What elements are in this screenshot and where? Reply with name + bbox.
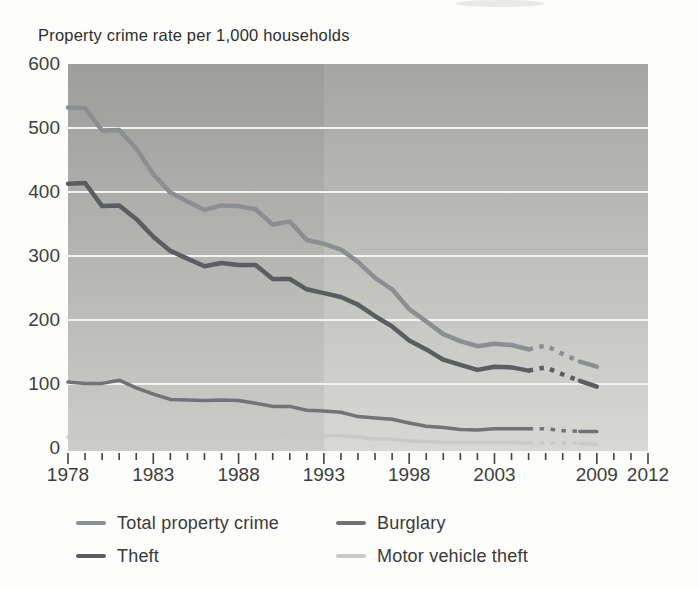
series-line-motor-vehicle-theft: [580, 444, 597, 445]
legend: Total property crime Burglary Theft Moto…: [76, 510, 528, 569]
x-axis-label-2003: 2003: [462, 464, 526, 486]
y-axis-label-400: 400: [0, 181, 60, 203]
x-axis-label-1998: 1998: [377, 464, 441, 486]
x-axis-label-1988: 1988: [207, 464, 271, 486]
y-axis-label-600: 600: [0, 53, 60, 75]
x-axis-label-1983: 1983: [121, 464, 185, 486]
series-line-total-property-crime-dashed: [529, 346, 580, 362]
x-axis-label-1978: 1978: [36, 464, 100, 486]
y-axis-label-200: 200: [0, 309, 60, 331]
motor-vehicle-theft-line-swatch: [336, 554, 366, 558]
legend-label: Total property crime: [117, 513, 279, 534]
y-axis-label-300: 300: [0, 245, 60, 267]
scanned-chart-page: Property crime rate per 1,000 households…: [0, 0, 699, 589]
legend-item-theft: Theft: [76, 543, 336, 569]
theft-line-swatch: [76, 554, 106, 558]
series-line-total-property-crime: [580, 362, 597, 367]
series-line-motor-vehicle-theft: [68, 434, 529, 443]
legend-item-burglary: Burglary: [336, 510, 528, 536]
legend-label: Theft: [117, 546, 159, 567]
legend-label: Burglary: [377, 513, 446, 534]
legend-item-total-property-crime: Total property crime: [76, 510, 336, 536]
y-axis-label-0: 0: [0, 437, 60, 459]
legend-item-motor-vehicle-theft: Motor vehicle theft: [336, 543, 528, 569]
y-axis-label-500: 500: [0, 117, 60, 139]
series-line-theft-dashed: [529, 367, 580, 380]
chart-canvas: [0, 0, 699, 589]
series-line-burglary: [68, 380, 529, 430]
series-line-theft: [580, 381, 597, 387]
series-line-motor-vehicle-theft-dashed: [529, 443, 580, 444]
total-property-crime-line-swatch: [76, 521, 106, 525]
series-line-burglary-dashed: [529, 429, 580, 432]
legend-label: Motor vehicle theft: [377, 546, 528, 567]
burglary-line-swatch: [336, 521, 366, 525]
x-axis-label-2012: 2012: [616, 464, 680, 486]
y-axis-label-100: 100: [0, 373, 60, 395]
series-line-total-property-crime: [68, 108, 529, 350]
x-axis-label-1993: 1993: [292, 464, 356, 486]
